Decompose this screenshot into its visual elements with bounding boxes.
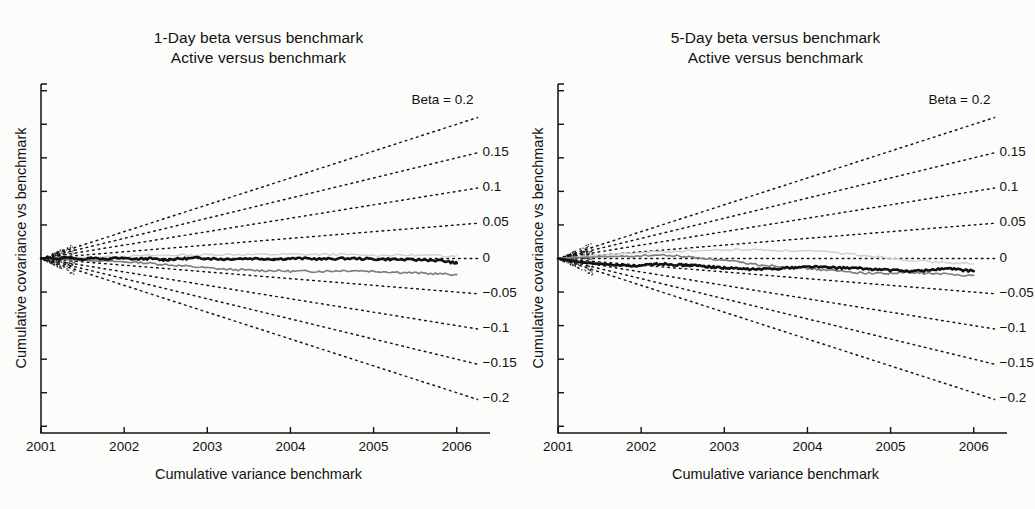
beta-fan-labels-1day: Beta = 0.20.150.10.050−0.05−0.1−0.15−0.2 [0,0,517,509]
beta-ray-label: −0.2 [483,390,510,405]
beta-ray-label: 0.1 [1000,179,1019,194]
beta-ray-label: 0.15 [1000,144,1026,159]
beta-ray-label: −0.15 [1000,355,1034,370]
beta-ray-label: −0.1 [483,320,510,335]
beta-ray-label: −0.05 [1000,285,1034,300]
beta-ray-label: 0 [1000,250,1008,265]
beta-fan-labels-5day: Beta = 0.20.150.10.050−0.05−0.1−0.15−0.2 [517,0,1034,509]
beta-ray-label: Beta = 0.2 [929,92,991,107]
beta-ray-label: 0.1 [483,179,502,194]
x-axis-label-5day: Cumulative variance benchmark [517,466,1034,482]
beta-ray-label: 0 [483,250,491,265]
beta-ray-label: −0.1 [1000,320,1027,335]
beta-ray-label: 0.15 [483,144,509,159]
panel-5day: 5-Day beta versus benchmark Active versu… [517,0,1034,509]
beta-ray-label: −0.15 [483,355,517,370]
beta-ray-label: −0.05 [483,285,517,300]
beta-ray-label: Beta = 0.2 [412,92,474,107]
beta-ray-label: 0.05 [1000,214,1026,229]
beta-ray-label: −0.2 [1000,390,1027,405]
x-axis-label-1day: Cumulative variance benchmark [0,466,517,482]
panel-1day: 1-Day beta versus benchmark Active versu… [0,0,517,509]
figure-canvas: 1-Day beta versus benchmark Active versu… [0,0,1035,509]
beta-ray-label: 0.05 [483,214,509,229]
